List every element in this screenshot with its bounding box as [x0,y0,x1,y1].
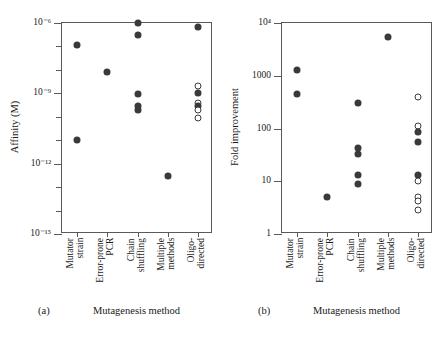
y-axis-tick [56,187,62,188]
y-axis-tick [54,93,62,94]
data-point [104,69,111,76]
x-axis-category-label: Multiplemethods [157,238,176,271]
data-point [74,137,81,144]
x-axis-title-a: Mutagenesis method [61,305,212,316]
y-axis-tick-label: 1000 [252,71,271,81]
x-axis-tick [388,232,389,237]
y-axis-tick [56,140,62,141]
y-axis-tick [56,46,62,47]
data-point [134,106,141,113]
x-axis-category-label: Oligo-directed [407,238,426,269]
y-axis-tick-label: 1 [266,229,271,239]
data-point [164,172,171,179]
y-axis-title-a: Affinity (M) [9,101,20,154]
x-axis-category-label: Mutatorstrain [286,238,305,269]
data-point [134,32,141,39]
y-axis-tick [56,117,62,118]
data-point [354,172,361,179]
y-axis-tick [54,234,62,235]
panel-b: Fold improvement 10⁴1000100101 (b) Mutag… [220,0,440,344]
y-axis-tick [54,164,62,165]
x-axis-tick [297,232,298,237]
x-axis-tick [107,232,108,237]
y-axis-tick [274,181,282,182]
plot-area-b: 10⁴1000100101 [281,22,432,233]
data-point [354,150,361,157]
data-point [414,139,421,146]
data-point [384,33,391,40]
x-axis-category-label: Oligo-directed [187,238,206,269]
panel-label-b: (b) [258,305,270,316]
data-point [414,207,421,214]
data-point [354,100,361,107]
y-axis-tick-label: 100 [257,124,271,134]
x-axis-tick [418,232,419,237]
data-point [194,106,201,113]
x-axis-tick [77,232,78,237]
data-point [414,178,421,185]
data-point [354,180,361,187]
x-axis-category-label: Multiplemethods [377,238,396,271]
y-axis-tick [56,70,62,71]
y-axis-tick-label: 10⁻¹⁵ [30,229,51,239]
x-axis-tick [327,232,328,237]
panel-label-a: (a) [38,305,50,316]
x-axis-category-label: Chainshuffling [127,238,146,272]
y-axis-tick-label: 10⁻⁶ [33,18,51,28]
y-axis-tick [274,234,282,235]
data-point [194,23,201,30]
x-axis-category-label: Chainshuffling [347,238,366,272]
y-axis-tick-label: 10⁻¹² [31,159,51,169]
x-axis-category-label: Error-pronePCR [97,238,116,283]
y-axis-tick [274,129,282,130]
data-point [134,20,141,27]
data-point [194,90,201,97]
y-axis-tick [54,23,62,24]
y-axis-tick [56,211,62,212]
data-point [194,114,201,121]
data-point [414,198,421,205]
x-axis-category-label: Error-pronePCR [317,238,336,283]
x-axis-category-label: Mutatorstrain [66,238,85,269]
plot-area-a: 10⁻⁶10⁻⁹10⁻¹²10⁻¹⁵ [61,22,212,233]
x-axis-tick [358,232,359,237]
data-point [294,91,301,98]
x-axis-tick [198,232,199,237]
data-point [74,41,81,48]
y-axis-tick-label: 10⁻⁹ [33,89,51,99]
y-axis-tick [274,76,282,77]
data-point [414,129,421,136]
data-point [414,93,421,100]
data-point [134,91,141,98]
data-point [294,66,301,73]
y-axis-tick [274,23,282,24]
x-axis-tick [168,232,169,237]
panel-a: Affinity (M) 10⁻⁶10⁻⁹10⁻¹²10⁻¹⁵ (a) Muta… [0,0,220,344]
data-point [324,194,331,201]
x-axis-title-b: Mutagenesis method [281,305,432,316]
x-axis-tick [138,232,139,237]
y-axis-tick-label: 10 [262,177,272,187]
y-axis-title-b: Fold improvement [229,88,240,166]
y-axis-tick-label: 10⁴ [258,18,271,28]
data-point [194,83,201,90]
